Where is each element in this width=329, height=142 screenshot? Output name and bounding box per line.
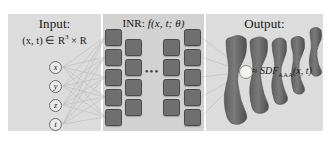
ellipsis-dots: ••• [143, 68, 161, 74]
inr-block [105, 69, 122, 86]
inr-title-prefix: INR: [123, 17, 148, 29]
input-node-x: x [49, 61, 62, 74]
inr-block [105, 29, 122, 46]
input-node-y-label: y [54, 82, 58, 91]
input-panel: Input: (x, t) ∈ R3 × R x y z t [8, 14, 101, 131]
inr-block [125, 79, 142, 96]
inr-block [184, 109, 201, 126]
inr-title-function: f(x, t; θ) [148, 17, 185, 29]
inr-block [184, 69, 201, 86]
output-panel-title: Output: [206, 16, 323, 32]
input-node-t-label: t [54, 120, 56, 129]
sdf-arguments: (x, t) [293, 65, 312, 76]
input-node-x-label: x [54, 63, 58, 72]
inr-block [184, 29, 201, 46]
inr-block [163, 99, 180, 116]
input-node-t: t [49, 118, 62, 131]
inr-block [105, 109, 122, 126]
inr-block [125, 59, 142, 76]
sdf-subscript: AAA [278, 71, 293, 78]
input-node-z-label: z [54, 101, 57, 110]
sdf-function-name: SDF [260, 65, 278, 76]
inr-block [105, 49, 122, 66]
input-domain-expression: (x, t) ∈ R3 × R [8, 33, 101, 46]
input-panel-title: Input: [8, 16, 101, 32]
inr-block [163, 59, 180, 76]
inr-block [105, 89, 122, 106]
input-domain-head: (x, t) ∈ R [22, 35, 65, 46]
sdf-approx-sign: ≈ [252, 65, 260, 76]
inr-block [163, 39, 180, 56]
inr-architecture-figure: Input: (x, t) ∈ R3 × R x y z t INR: f(x,… [0, 0, 329, 142]
input-node-y: y [49, 80, 62, 93]
input-domain-tail: × R [68, 35, 86, 46]
inr-block [184, 49, 201, 66]
input-node-z: z [49, 99, 62, 112]
inr-block [184, 89, 201, 106]
sdf-query-point-marker [239, 65, 253, 79]
inr-block [125, 99, 142, 116]
inr-block [125, 39, 142, 56]
sdf-formula-label: ≈ SDFAAA(x, t) [252, 65, 312, 78]
inr-block [163, 79, 180, 96]
inr-panel-title: INR: f(x, t; θ) [103, 17, 204, 29]
